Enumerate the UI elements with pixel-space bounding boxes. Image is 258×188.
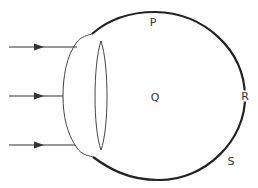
eyeball-outline [92, 12, 245, 180]
label-p: P [149, 17, 158, 28]
arrowhead-icon [34, 93, 44, 100]
arrowhead-icon [34, 142, 44, 149]
lens [95, 41, 107, 150]
arrowhead-icon [34, 44, 44, 51]
cornea [63, 34, 93, 157]
light-rays [9, 44, 77, 149]
label-r: R [240, 91, 250, 102]
label-q: Q [150, 92, 161, 103]
label-s: S [227, 156, 236, 167]
eye-diagram [0, 0, 258, 188]
